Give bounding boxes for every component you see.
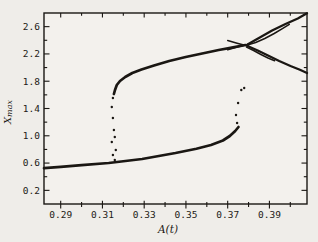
dot-left-jump-transient-dots	[111, 141, 113, 143]
y-tick-label: 1.4	[23, 103, 40, 114]
dot-left-jump-transient-dots	[111, 106, 113, 108]
dot-right-jump-transient-dots	[243, 87, 245, 89]
y-tick-label: 2.6	[23, 21, 40, 32]
dot-left-jump-transient-dots	[112, 154, 114, 156]
dot-left-jump-transient-dots	[113, 129, 115, 131]
x-tick-label: 0.39	[258, 209, 281, 220]
dot-left-jump-transient-dots	[114, 159, 116, 161]
y-tick-label: 1.0	[23, 130, 40, 141]
y-tick-label: 0.2	[23, 185, 40, 196]
dot-left-jump-transient-dots	[114, 136, 116, 138]
x-tick-label: 0.31	[91, 209, 114, 220]
bifurcation-diagram: 0.290.310.330.350.370.390.20.61.01.41.82…	[0, 0, 318, 242]
plot-svg: 0.290.310.330.350.370.390.20.61.01.41.82…	[0, 0, 318, 242]
x-tick-label: 0.33	[133, 209, 156, 220]
dot-left-jump-transient-dots	[112, 117, 114, 119]
dot-right-jump-transient-dots	[240, 89, 242, 91]
dot-right-jump-transient-dots	[237, 102, 239, 104]
y-axis-label-sub: max	[5, 100, 14, 117]
y-tick-label: 1.8	[23, 76, 40, 87]
dot-right-jump-transient-dots	[236, 122, 238, 124]
x-tick-label: 0.29	[49, 209, 72, 220]
dot-left-jump-transient-dots	[115, 149, 117, 151]
dot-right-jump-transient-dots	[235, 114, 237, 116]
y-tick-label: 0.6	[23, 157, 40, 168]
x-tick-label: 0.35	[174, 209, 197, 220]
plot-frame	[44, 13, 307, 204]
dot-left-jump-transient-dots	[112, 97, 114, 99]
y-axis-label: Xmax	[2, 100, 14, 125]
y-tick-label: 2.2	[23, 48, 40, 59]
x-tick-label: 0.37	[216, 209, 239, 220]
chart-layers: 0.290.310.330.350.370.390.20.61.01.41.82…	[23, 13, 307, 220]
x-axis-label: A(t)	[157, 223, 178, 235]
